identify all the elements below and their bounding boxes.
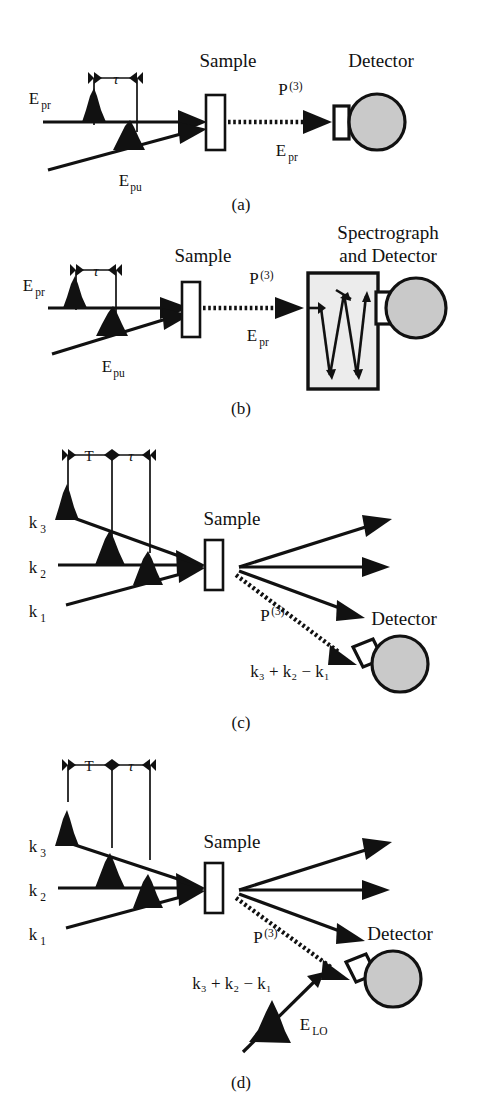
detector-label-d: Detector xyxy=(367,923,433,944)
output-beam-upper-c xyxy=(239,515,392,567)
signal-sublabel-b: pr xyxy=(259,336,269,349)
panel-b-diagram: τ E pr E pu Sample P (3) E pr xyxy=(0,220,483,420)
detector-d xyxy=(346,951,421,1007)
panel-caption-d: (d) xyxy=(231,1073,251,1092)
panel-a: τ E pr E pu Sample P (3) E p xyxy=(0,30,483,220)
phase-matching-label-d: k₃ + k₂ − k₁ xyxy=(192,974,271,993)
signal-sublabel-a: pr xyxy=(288,151,298,164)
probe-sublabel-a: pr xyxy=(41,99,51,112)
T-label-c: T xyxy=(84,448,93,464)
detector-b xyxy=(376,278,446,338)
detector-c xyxy=(353,636,428,692)
k1-label-c: k xyxy=(29,602,38,621)
probe-sublabel-b: pr xyxy=(35,286,45,299)
k3-pulse-d xyxy=(55,810,79,846)
phase-matching-label-c: k₃ + k₂ − k₁ xyxy=(250,662,329,681)
k3-sublabel-c: 3 xyxy=(40,523,46,535)
sample-cuvette-d xyxy=(205,863,223,913)
local-oscillator-sublabel-d: LO xyxy=(312,1025,327,1037)
spectrograph-b xyxy=(308,273,378,389)
probe-label-a: E xyxy=(29,89,39,108)
T-label-d: T xyxy=(84,758,93,774)
k1-sublabel-d: 1 xyxy=(40,935,46,947)
output-beam-lower-c xyxy=(239,571,365,621)
pump-pulse-b xyxy=(96,306,128,336)
k2-pulse-d xyxy=(95,853,125,888)
detector-label-c: Detector xyxy=(371,608,437,629)
panel-a-diagram: τ E pr E pu Sample P (3) E p xyxy=(0,30,483,220)
detector-a xyxy=(334,94,405,150)
spectrograph-label-line1-b: Spectrograph xyxy=(337,222,439,243)
panel-b: τ E pr E pu Sample P (3) E pr xyxy=(0,220,483,420)
probe-pulse-a xyxy=(82,88,106,122)
pump-label-a: E xyxy=(119,171,129,190)
signal-label-b: E xyxy=(247,326,257,345)
k1-pulse-d xyxy=(133,874,163,908)
polarization-label-b: P xyxy=(249,269,258,288)
sample-label-d: Sample xyxy=(204,831,261,852)
polarization-suplabel-a: (3) xyxy=(289,80,303,93)
probe-pulse-b xyxy=(63,276,87,308)
panel-c-diagram: T τ k 3 k 2 xyxy=(0,425,483,695)
panel-d: (c) T τ xyxy=(0,700,483,1118)
sample-cuvette-a xyxy=(206,95,225,150)
sample-cuvette-b xyxy=(182,282,200,337)
tau-label-b: τ xyxy=(93,263,99,279)
k1-sublabel-c: 1 xyxy=(40,612,46,624)
polarization-label-c: P xyxy=(260,606,269,625)
k3-label-d: k xyxy=(29,837,38,856)
local-oscillator-label-d: E xyxy=(300,1015,310,1034)
tau-label-c: τ xyxy=(128,448,134,464)
polarization-beam-b xyxy=(203,297,304,319)
pump-sublabel-a: pu xyxy=(130,181,142,194)
panel-caption-c: (c) xyxy=(232,713,251,732)
sample-cuvette-c xyxy=(205,540,223,590)
pump-label-b: E xyxy=(102,357,112,376)
panel-c: T τ k 3 k 2 xyxy=(0,425,483,695)
detector-label-a: Detector xyxy=(348,50,414,71)
sample-label-c: Sample xyxy=(204,508,261,529)
polarization-suplabel-d: (3) xyxy=(264,927,278,940)
k1-label-d: k xyxy=(29,925,38,944)
sample-label-b: Sample xyxy=(175,245,232,266)
polarization-suplabel-b: (3) xyxy=(260,269,274,282)
local-oscillator-pulse-d xyxy=(249,1000,291,1043)
tau-label-d: τ xyxy=(128,758,134,774)
k2-sublabel-d: 2 xyxy=(40,891,46,903)
k2-sublabel-c: 2 xyxy=(40,568,46,580)
pump-sublabel-b: pu xyxy=(113,367,125,380)
k1-pulse-c xyxy=(133,551,163,585)
panel-caption-a: (a) xyxy=(232,195,251,214)
k2-label-c: k xyxy=(29,558,38,577)
signal-label-a: E xyxy=(276,141,286,160)
tau-label-a: τ xyxy=(113,71,119,87)
output-beam-upper-d xyxy=(239,838,392,890)
probe-label-b: E xyxy=(23,276,33,295)
spectrograph-label-line2-b: and Detector xyxy=(339,245,437,266)
panel-d-diagram: (c) T τ xyxy=(0,700,483,1118)
polarization-label-d: P xyxy=(253,928,262,947)
panel-caption-b: (b) xyxy=(231,399,251,418)
k3-label-c: k xyxy=(29,513,38,532)
pump-pulse-a xyxy=(113,120,145,150)
k2-label-d: k xyxy=(29,881,38,900)
polarization-beam-a xyxy=(228,110,332,134)
timing-marker-tau-d: τ xyxy=(112,758,156,860)
sample-label-a: Sample xyxy=(200,50,257,71)
timing-marker-tau-c: τ xyxy=(112,448,156,553)
k3-sublabel-d: 3 xyxy=(40,847,46,859)
polarization-label-a: P xyxy=(278,80,287,99)
polarization-suplabel-c: (3) xyxy=(271,605,285,618)
k3-pulse-c xyxy=(55,484,79,520)
